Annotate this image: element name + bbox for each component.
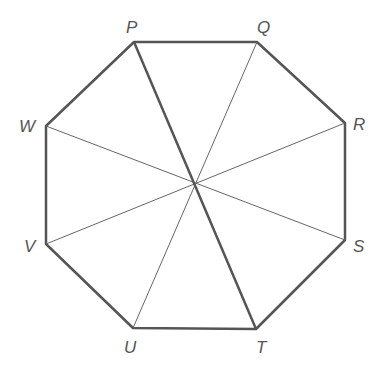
vertex-label-t: T — [256, 338, 268, 357]
vertex-label-r: R — [353, 115, 365, 134]
vertex-label-s: S — [353, 237, 365, 256]
vertex-label-v: V — [24, 237, 37, 256]
vertex-labels: P Q R S T U V W — [19, 18, 365, 357]
diagonal-pt — [134, 42, 256, 329]
vertex-label-p: P — [126, 18, 138, 37]
vertex-label-w: W — [19, 117, 37, 136]
vertex-label-q: Q — [257, 18, 270, 37]
vertex-label-u: U — [124, 338, 137, 357]
octagon-diagram: P Q R S T U V W — [0, 0, 383, 369]
diagonal-sw — [46, 126, 345, 240]
thick-diagonals — [134, 42, 256, 329]
